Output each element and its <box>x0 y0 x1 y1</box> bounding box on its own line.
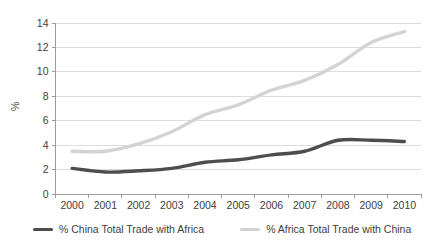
legend-label: % China Total Trade with Africa <box>59 223 204 235</box>
y-tick-label: 14 <box>37 17 49 29</box>
x-tick-label: 2009 <box>359 199 383 211</box>
x-tick-label: 2007 <box>293 199 317 211</box>
y-tick-label: 12 <box>37 41 49 53</box>
legend-item-china-trade: % China Total Trade with Africa <box>33 223 204 235</box>
legend-line-swatch-china <box>33 228 53 231</box>
y-tick-label: 8 <box>43 90 49 102</box>
series-line-china <box>72 139 404 172</box>
x-tick-label: 2003 <box>160 199 184 211</box>
x-tick-label: 2000 <box>60 199 84 211</box>
legend-item-africa-trade: % Africa Total Trade with China <box>240 223 411 235</box>
x-tick-label: 2010 <box>393 199 417 211</box>
x-tick-label: 2001 <box>94 199 118 211</box>
y-tick-label: 2 <box>43 163 49 175</box>
legend-label: % Africa Total Trade with China <box>266 223 411 235</box>
chart-figure: 0246810121420002001200220032004200520062… <box>0 0 430 251</box>
series-line-africa <box>72 32 404 152</box>
x-tick-label: 2005 <box>227 199 251 211</box>
y-tick-label: 6 <box>43 114 49 126</box>
y-tick-label: 0 <box>43 188 49 200</box>
y-axis-title: % <box>9 93 21 119</box>
x-tick-label: 2002 <box>127 199 151 211</box>
x-tick-label: 2006 <box>260 199 284 211</box>
legend-line-swatch-africa <box>240 228 260 231</box>
y-tick-label: 4 <box>43 139 49 151</box>
x-tick-label: 2008 <box>326 199 350 211</box>
chart-plot-area: 0246810121420002001200220032004200520062… <box>0 0 430 251</box>
x-tick-label: 2004 <box>193 199 217 211</box>
y-tick-label: 10 <box>37 65 49 77</box>
chart-legend: % China Total Trade with Africa % Africa… <box>33 223 427 235</box>
